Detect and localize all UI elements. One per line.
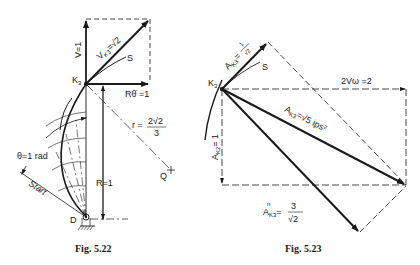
svg-text:√2: √2 <box>243 47 252 56</box>
label-start: Start <box>27 178 49 197</box>
label-theta: θ=1 rad <box>17 151 48 161</box>
label-ak3n-num: 3 <box>291 201 296 211</box>
path-s-line <box>88 57 126 82</box>
label-v: V=1 <box>73 42 83 58</box>
label-r-num: 2√2 <box>148 116 163 126</box>
figure-5-23: AK3= 1 √2 S K3 2Vω =2 AK3=√5 ips² AK2= 1… <box>205 37 406 254</box>
label-r-den: 3 <box>154 128 159 138</box>
label-ak3n: AK3= <box>263 207 282 218</box>
label-ak3: AK3=√5 ips² <box>283 104 329 134</box>
label-R: R=1 <box>96 178 113 188</box>
label-at: AK3= <box>222 51 243 72</box>
label-s: S <box>127 53 133 63</box>
accel-k3-arrow <box>222 89 404 184</box>
svg-text:n: n <box>267 201 270 207</box>
label-q: Q <box>160 171 167 181</box>
label-r-prefix: r = <box>132 120 143 130</box>
path-arc <box>61 84 86 216</box>
label-vk3: VK3=√2 <box>95 35 124 62</box>
svg-text:1: 1 <box>238 40 245 47</box>
label-k3: K3 <box>72 75 82 86</box>
diagram-canvas: V=1 VK3=√2 S K3 Rθ̇ =1 r = 2√2 3 Q θ=1 r… <box>0 0 420 265</box>
figure-5-22: V=1 VK3=√2 S K3 Rθ̇ =1 r = 2√2 3 Q θ=1 r… <box>17 19 175 254</box>
figure-caption: Fig. 5.22 <box>75 243 111 254</box>
construction-lines <box>56 120 86 217</box>
dashed-line <box>360 186 406 232</box>
path-arc <box>205 80 222 140</box>
label-k3: K3 <box>208 78 218 89</box>
label-d: D <box>70 215 77 225</box>
point-k3 <box>220 87 224 91</box>
label-ak2n: AK2= 1 <box>210 134 221 160</box>
label-s: S <box>262 62 268 72</box>
label-rtheta: Rθ̇ =1 <box>125 89 149 99</box>
label-coriolis: 2Vω =2 <box>341 76 372 86</box>
start-line <box>20 172 86 217</box>
figure-caption: Fig. 5.23 <box>285 243 321 254</box>
label-ak3n-den: √2 <box>288 214 298 224</box>
